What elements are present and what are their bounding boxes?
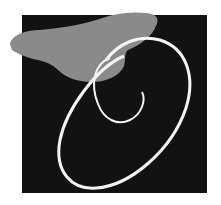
drop-cap-illustration <box>0 0 221 205</box>
